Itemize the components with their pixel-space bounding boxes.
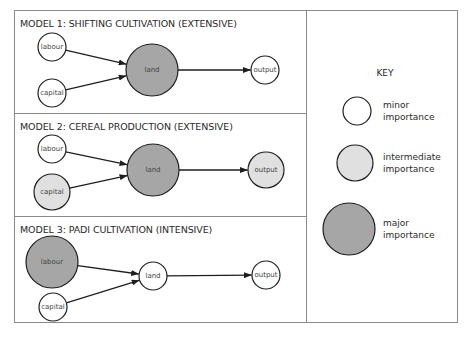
output-label: output — [254, 166, 277, 174]
labour-label: labour — [41, 145, 63, 153]
arrow-capital-to-land — [66, 280, 139, 303]
land-label: land — [145, 166, 160, 174]
capital-label: capital — [40, 188, 64, 196]
node-capital: capital — [39, 293, 67, 321]
labour-label: labour — [41, 258, 63, 266]
key-label-major-line2: importance — [383, 230, 435, 240]
key-panel: KEY minor importance intermediate import… — [323, 68, 441, 255]
model-3-panel: MODEL 3: PADI CULTIVATION (INTENSIVE) la… — [20, 224, 280, 321]
key-item-intermediate: intermediate importance — [337, 145, 441, 181]
land-label: land — [145, 272, 160, 280]
node-capital: capital — [38, 79, 66, 107]
node-land: land — [126, 44, 178, 96]
key-title: KEY — [376, 68, 394, 78]
key-label-intermediate-line2: importance — [383, 164, 435, 174]
capital-label: capital — [41, 303, 65, 311]
major-importance-swatch — [323, 203, 375, 255]
arrow-labour-to-land — [66, 50, 127, 64]
key-label-intermediate-line1: intermediate — [383, 152, 441, 162]
model-2-title: MODEL 2: CEREAL PRODUCTION (EXTENSIVE) — [20, 121, 233, 132]
model-1-title: MODEL 1: SHIFTING CULTIVATION (EXTENSIVE… — [20, 18, 237, 29]
node-capital: capital — [34, 174, 70, 210]
agriculture-models-diagram: MODEL 1: SHIFTING CULTIVATION (EXTENSIVE… — [0, 0, 470, 338]
node-output: output — [248, 152, 284, 188]
land-label: land — [144, 66, 159, 74]
key-label-major-line1: major — [383, 218, 409, 228]
node-labour: labour — [38, 33, 66, 61]
node-labour: labour — [38, 135, 66, 163]
node-output: output — [252, 261, 280, 289]
node-output: output — [251, 56, 279, 84]
key-item-minor: minor importance — [343, 97, 435, 125]
model-3-nodes: labourcapitallandoutput — [26, 236, 280, 321]
model-2-panel: MODEL 2: CEREAL PRODUCTION (EXTENSIVE) l… — [20, 121, 284, 210]
node-labour: labour — [26, 236, 78, 288]
labour-label: labour — [41, 43, 63, 51]
arrow-capital-to-land — [70, 176, 128, 189]
arrow-land-to-output — [167, 275, 252, 276]
key-label-minor-line1: minor — [383, 100, 409, 110]
arrow-capital-to-land — [66, 76, 127, 90]
minor-importance-swatch — [343, 97, 371, 125]
model-3-title: MODEL 3: PADI CULTIVATION (INTENSIVE) — [20, 224, 212, 235]
output-label: output — [254, 271, 277, 279]
output-label: output — [253, 66, 276, 74]
node-land: land — [139, 262, 167, 290]
key-item-major: major importance — [323, 203, 435, 255]
capital-label: capital — [40, 89, 64, 97]
model-2-nodes: labourcapitallandoutput — [34, 135, 284, 210]
node-land: land — [127, 144, 179, 196]
arrow-labour-to-land — [78, 266, 139, 274]
model-1-panel: MODEL 1: SHIFTING CULTIVATION (EXTENSIVE… — [20, 18, 279, 107]
intermediate-importance-swatch — [337, 145, 373, 181]
arrow-labour-to-land — [66, 152, 127, 165]
key-label-minor-line2: importance — [383, 112, 435, 122]
